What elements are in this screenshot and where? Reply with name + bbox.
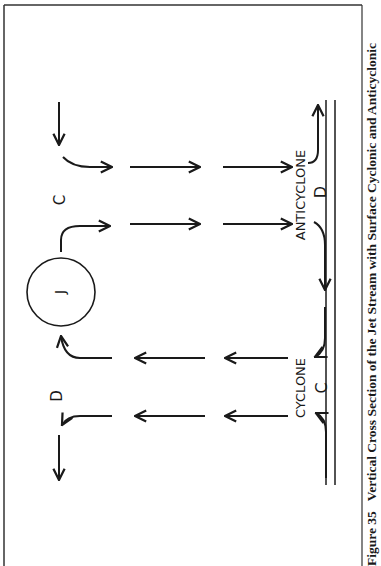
- labels: J D C ANTICYCLONE D CYCLONE C Figure 35 …: [48, 43, 379, 566]
- anticyclone-divergence-label: D: [311, 186, 330, 198]
- upper-outflow-arrows-right: [61, 224, 292, 252]
- upper-convergence-label: C: [51, 195, 69, 205]
- surface-flow-arrows: [308, 105, 326, 478]
- cyclone-convergence-label: C: [312, 382, 331, 393]
- cyclone-label: CYCLONE: [293, 358, 308, 418]
- upper-flow-arrows-left: [59, 336, 288, 480]
- surface-line: [326, 100, 335, 485]
- jet-stream-cross-section-figure: J D C ANTICYCLONE D CYCLONE C Figure 35 …: [0, 0, 381, 566]
- upper-flow-arrows-top: [59, 102, 292, 167]
- anticyclone-label: ANTICYCLONE: [293, 150, 308, 241]
- upper-divergence-label: D: [48, 390, 66, 402]
- figure-caption: Figure 35 Vertical Cross Section of the …: [364, 43, 379, 566]
- jet-label: J: [52, 290, 68, 295]
- figure-frame: [4, 5, 362, 566]
